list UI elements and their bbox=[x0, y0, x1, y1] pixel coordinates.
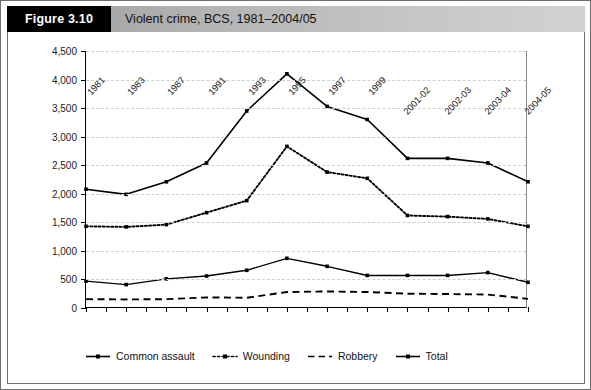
data-point-marker bbox=[165, 223, 169, 227]
y-axis-tick bbox=[81, 222, 86, 223]
y-axis-label: 2,500 bbox=[52, 160, 77, 171]
data-point-marker bbox=[406, 214, 410, 218]
x-axis-minor-tick bbox=[468, 307, 469, 312]
data-point-marker bbox=[446, 215, 450, 219]
data-point-marker bbox=[486, 217, 490, 221]
x-axis-minor-tick bbox=[186, 307, 187, 312]
data-point-marker bbox=[84, 187, 88, 191]
legend-item-wounding[interactable]: Wounding bbox=[212, 350, 290, 362]
y-axis-tick bbox=[81, 165, 86, 166]
x-axis-tick bbox=[207, 307, 208, 312]
data-point-marker bbox=[285, 145, 289, 149]
series-line-common-assault bbox=[86, 258, 528, 284]
y-axis-label: 4,500 bbox=[52, 46, 77, 57]
x-axis-tick bbox=[327, 307, 328, 312]
y-axis-label: 1,000 bbox=[52, 245, 77, 256]
legend-item-robbery[interactable]: Robbery bbox=[307, 350, 378, 362]
y-axis-label: 4,000 bbox=[52, 74, 77, 85]
x-axis-minor-tick bbox=[387, 307, 388, 312]
data-point-marker bbox=[365, 118, 369, 122]
data-point-marker bbox=[526, 225, 530, 229]
legend-item-total[interactable]: Total bbox=[395, 350, 448, 362]
chart-frame: 05001,0001,5002,0002,5003,0003,5004,0004… bbox=[7, 32, 585, 384]
gridline bbox=[86, 251, 526, 252]
x-axis-tick bbox=[488, 307, 489, 312]
data-point-marker bbox=[325, 170, 329, 174]
data-point-marker bbox=[205, 211, 209, 215]
data-point-marker bbox=[446, 274, 450, 278]
data-point-marker bbox=[165, 180, 169, 184]
data-point-marker bbox=[245, 269, 249, 273]
y-axis-tick bbox=[81, 194, 86, 195]
data-point-marker bbox=[406, 157, 410, 161]
x-axis-tick bbox=[528, 307, 529, 312]
x-axis-tick bbox=[126, 307, 127, 312]
dashed-line-icon bbox=[307, 352, 333, 361]
y-axis-tick bbox=[81, 108, 86, 109]
figure-title: Violent crime, BCS, 1981–2004/05 bbox=[111, 6, 585, 32]
x-axis-minor-tick bbox=[307, 307, 308, 312]
data-point-marker bbox=[124, 225, 128, 229]
y-axis-label: 1,500 bbox=[52, 217, 77, 228]
series-line-robbery bbox=[86, 291, 528, 299]
x-axis-minor-tick bbox=[267, 307, 268, 312]
gridline bbox=[86, 194, 526, 195]
y-axis-label: 3,500 bbox=[52, 103, 77, 114]
data-point-marker bbox=[205, 274, 209, 278]
chart-legend: Common assaultWoundingRobberyTotal bbox=[85, 350, 448, 362]
data-point-marker bbox=[245, 199, 249, 203]
data-point-marker bbox=[285, 257, 289, 261]
gridline bbox=[86, 165, 526, 166]
x-axis-minor-tick bbox=[428, 307, 429, 312]
data-point-marker bbox=[245, 109, 249, 113]
gridline bbox=[86, 137, 526, 138]
data-point-marker bbox=[84, 225, 88, 229]
y-axis-tick bbox=[81, 251, 86, 252]
legend-item-common-assault[interactable]: Common assault bbox=[85, 350, 195, 362]
data-point-marker bbox=[446, 157, 450, 161]
legend-label: Wounding bbox=[243, 350, 290, 362]
legend-label: Total bbox=[426, 350, 448, 362]
x-axis-tick bbox=[448, 307, 449, 312]
y-axis-tick bbox=[81, 80, 86, 81]
figure-number-tag: Figure 3.10 bbox=[7, 6, 111, 32]
y-axis-label: 500 bbox=[60, 274, 77, 285]
x-axis-tick bbox=[287, 307, 288, 312]
y-axis-label: 3,000 bbox=[52, 131, 77, 142]
data-point-marker bbox=[124, 283, 128, 287]
y-axis-label: 2,000 bbox=[52, 188, 77, 199]
x-axis-tick bbox=[86, 307, 87, 312]
figure-page: Figure 3.10 Violent crime, BCS, 1981–200… bbox=[0, 0, 591, 390]
data-point-marker bbox=[406, 274, 410, 278]
data-point-marker bbox=[325, 265, 329, 269]
gridline bbox=[86, 51, 526, 52]
gridline bbox=[86, 108, 526, 109]
x-axis-minor-tick bbox=[508, 307, 509, 312]
data-point-marker bbox=[285, 72, 289, 76]
legend-label: Common assault bbox=[116, 350, 195, 362]
gridline bbox=[86, 279, 526, 280]
data-point-marker bbox=[365, 177, 369, 181]
x-axis-tick bbox=[247, 307, 248, 312]
data-point-marker bbox=[205, 161, 209, 165]
y-axis-label: 0 bbox=[71, 303, 77, 314]
data-point-marker bbox=[526, 180, 530, 184]
data-point-marker bbox=[486, 161, 490, 165]
data-point-marker bbox=[486, 271, 490, 275]
data-point-marker bbox=[526, 281, 530, 285]
figure-header-band: Figure 3.10 Violent crime, BCS, 1981–200… bbox=[7, 6, 585, 32]
solid-line-marker-icon bbox=[395, 352, 421, 361]
x-axis-tick bbox=[367, 307, 368, 312]
solid-line-marker-icon bbox=[85, 352, 111, 361]
x-axis-minor-tick bbox=[347, 307, 348, 312]
legend-label: Robbery bbox=[338, 350, 378, 362]
y-axis-tick bbox=[81, 137, 86, 138]
plot-area: 05001,0001,5002,0002,5003,0003,5004,0004… bbox=[85, 51, 527, 308]
x-axis-minor-tick bbox=[146, 307, 147, 312]
x-axis-minor-tick bbox=[106, 307, 107, 312]
x-axis-minor-tick bbox=[227, 307, 228, 312]
y-axis-tick bbox=[81, 51, 86, 52]
data-point-marker bbox=[365, 274, 369, 278]
gridline bbox=[86, 222, 526, 223]
x-axis-tick bbox=[166, 307, 167, 312]
